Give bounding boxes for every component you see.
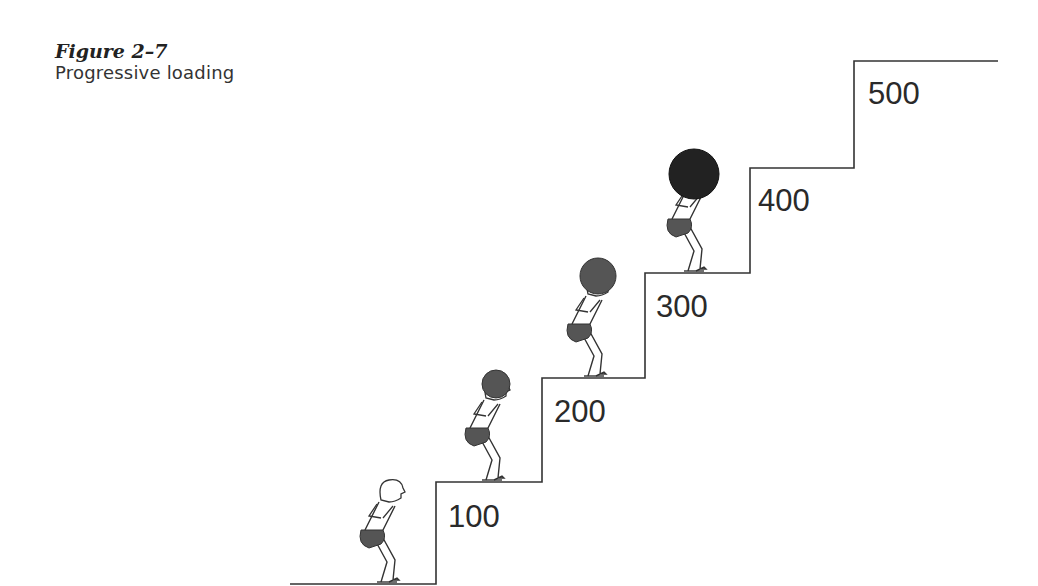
weight-ball-medium [580,258,616,294]
staircase-diagram: 100 200 300 400 500 [0,0,1038,586]
lifter-large-weight [667,149,719,271]
weight-ball-large [669,149,719,199]
lifter-small-weight [465,370,510,480]
staircase-outline [290,61,998,584]
step-label-400: 400 [758,183,810,218]
step-label-300: 300 [656,289,708,324]
lifter-no-weight [360,480,405,582]
step-label-500: 500 [868,76,920,111]
step-label-100: 100 [448,499,500,534]
lifter-medium-weight [567,258,616,376]
step-label-200: 200 [554,394,606,429]
weight-ball-small [482,370,510,398]
